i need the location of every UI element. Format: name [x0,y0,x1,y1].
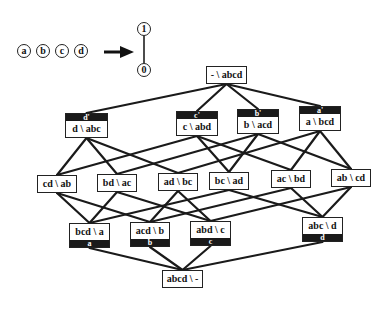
node-label: bd \ ac [98,175,136,191]
lattice-node-bot: abcd \ - [162,270,203,288]
lattice-node-ab: ab \ cd [331,169,371,187]
atom-d: d [74,44,88,58]
node-label: ad \ bc [159,174,197,190]
lattice-node-bd: bd \ ac [97,174,137,192]
lattice-node-top: - \ abcd [206,66,247,84]
node-label: bcd \ a [70,224,109,240]
edge-ab-abd [211,187,352,221]
lattice-node-abd: abd \ cc [190,221,231,246]
node-label: a \ bcd [300,114,340,130]
lattice-node-d-prime: d'd \ abc [65,113,108,138]
node-label: cd \ ab [38,176,76,192]
node-label: abcd \ - [163,271,202,287]
lattice-node-b-prime: b'b \ acd [237,109,279,134]
lattice-node-a-prime: a'a \ bcd [299,106,341,131]
node-label: abc \ d [303,218,342,234]
node-label: ab \ cd [332,170,370,186]
node-label: c \ abd [177,119,217,135]
chain-top: 1 [137,22,151,36]
node-header: b' [238,110,278,117]
node-footer: b [131,239,169,246]
node-header: a' [300,107,340,114]
lattice-node-acd: acd \ bb [130,222,170,247]
edge-c_-cd [57,136,197,175]
lattice-node-cd: cd \ ab [37,175,77,193]
lattice-node-ac: ac \ bd [271,170,311,188]
node-label: abd \ c [191,222,230,238]
atom-b: b [36,44,50,58]
node-label: acd \ b [131,223,169,239]
lattice-node-bc: bc \ ad [209,172,249,190]
node-footer: c [191,238,230,245]
edge-abc-bot [183,242,323,270]
edge-d_-cd [57,138,87,175]
node-label: ac \ bd [272,171,310,187]
edge-top-d_ [87,84,227,113]
atom-c: c [55,44,69,58]
node-footer: d [303,234,342,241]
lattice-node-abc: abc \ dd [302,217,343,242]
node-header: c' [177,112,217,119]
edge-b_-bd [117,134,258,174]
atom-a: a [17,44,31,58]
legend-arrow-icon [104,46,134,58]
node-label: bc \ ad [210,173,248,189]
node-label: - \ abcd [207,67,246,83]
chain-bottom: 0 [137,63,151,77]
node-header: d' [66,114,107,121]
lattice-node-ad: ad \ bc [158,173,198,191]
lattice-node-c-prime: c'c \ abd [176,111,218,136]
edge-a_-ac [291,131,320,170]
node-footer: a [70,240,109,247]
node-label: b \ acd [238,117,278,133]
lattice-node-bcd: bcd \ aa [69,223,110,248]
node-label: d \ abc [66,121,107,137]
